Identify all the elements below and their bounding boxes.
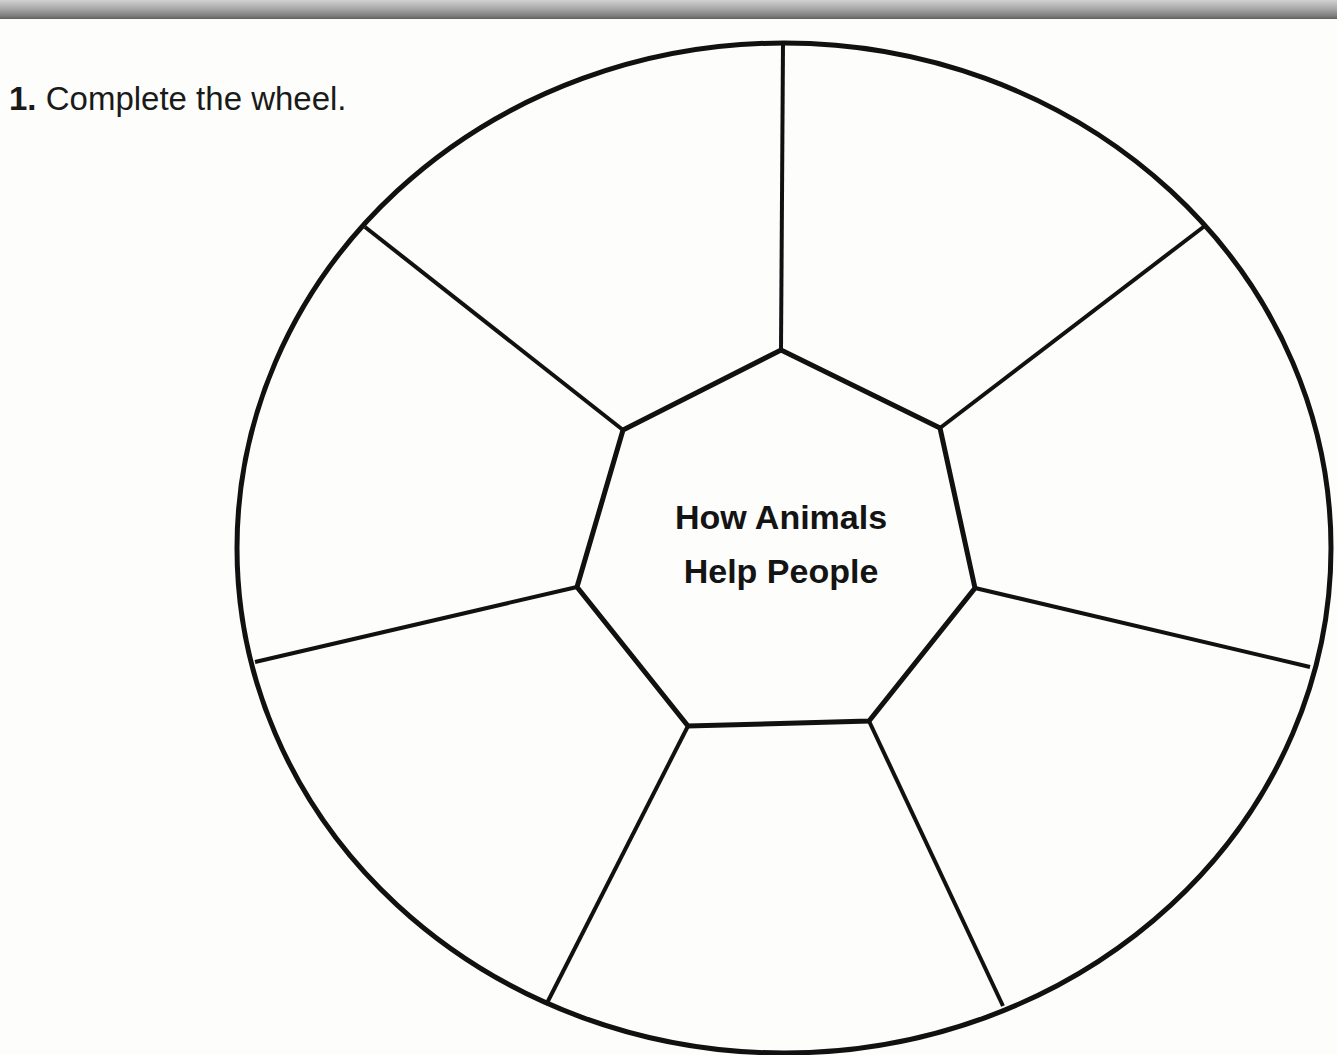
wheel-spoke xyxy=(869,721,1003,1006)
wheel-spoke xyxy=(975,588,1310,667)
center-label-line2: Help People xyxy=(620,544,942,598)
wheel-center-label: How Animals Help People xyxy=(620,490,942,598)
center-label-line1: How Animals xyxy=(620,490,942,544)
wheel-spoke xyxy=(255,587,577,662)
wheel-spoke xyxy=(940,225,1206,428)
wheel-spoke xyxy=(365,227,623,430)
wheel-spoke xyxy=(546,726,688,1005)
wheel-spoke xyxy=(781,43,783,350)
